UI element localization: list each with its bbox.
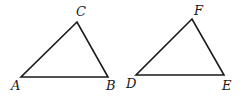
triangles-figure: A B C D E F: [0, 0, 246, 99]
vertex-label-d: D: [125, 76, 137, 91]
triangle-def: [136, 19, 224, 75]
triangle-abc: [21, 22, 108, 77]
triangles-svg: A B C D E F: [0, 0, 246, 99]
vertex-label-a: A: [10, 78, 20, 93]
vertex-label-b: B: [105, 78, 116, 93]
vertex-label-c: C: [76, 4, 86, 19]
vertex-label-f: F: [193, 3, 204, 18]
vertex-label-e: E: [221, 78, 232, 93]
